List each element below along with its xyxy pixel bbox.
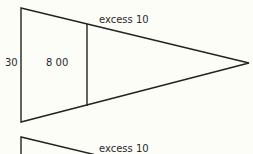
funnel-figure-2: excess 10	[21, 137, 149, 154]
funnel-triangle-partial	[21, 137, 94, 154]
funnel-figure-1: 30 8 00 excess 10	[5, 8, 249, 122]
inner-section-label: 8 00	[46, 57, 68, 68]
top-edge-label: excess 10	[99, 143, 149, 154]
left-side-label: 30	[5, 57, 18, 68]
diagram-canvas: 30 8 00 excess 10 excess 10	[0, 0, 253, 154]
top-edge-label: excess 10	[99, 14, 149, 25]
